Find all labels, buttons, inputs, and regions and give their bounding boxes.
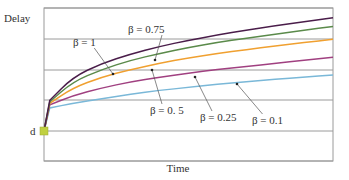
plot-frame bbox=[44, 8, 333, 161]
series-line bbox=[44, 57, 333, 131]
y-origin-label: d bbox=[30, 125, 36, 137]
origin-marker bbox=[40, 127, 48, 135]
series-annotation: β = 0. 5 bbox=[150, 104, 184, 116]
series-line bbox=[44, 75, 333, 131]
series-line bbox=[44, 39, 333, 131]
series-annotation: β = 0.75 bbox=[128, 23, 165, 35]
y-axis-label: Delay bbox=[4, 12, 31, 24]
x-axis-label: Time bbox=[167, 162, 190, 174]
series-annotation: β = 0.1 bbox=[252, 114, 283, 126]
series-line bbox=[44, 18, 333, 131]
series-annotation: β = 0.25 bbox=[200, 111, 237, 123]
delay-vs-time-chart: β = 1β = 0.75β = 0. 5β = 0.25β = 0.1 Del… bbox=[0, 0, 349, 180]
series-annotation: β = 1 bbox=[73, 36, 96, 48]
